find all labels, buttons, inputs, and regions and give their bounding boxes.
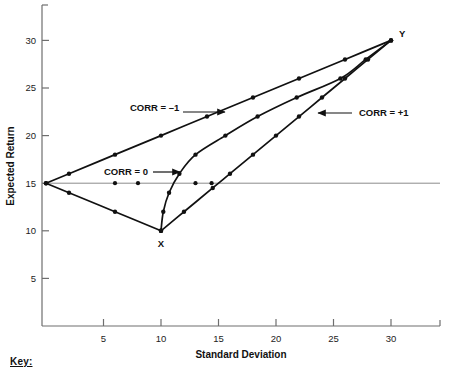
reference-marker — [113, 181, 117, 185]
data-point — [159, 133, 163, 137]
y-tick-label-5: 5 — [31, 273, 36, 284]
data-point — [251, 152, 255, 156]
data-point — [251, 95, 255, 99]
data-point — [320, 95, 324, 99]
data-point — [67, 171, 71, 175]
series-layer — [46, 40, 391, 230]
data-point — [167, 191, 171, 195]
reference-marker — [210, 181, 214, 185]
x-axis-title: Standard Deviation — [195, 349, 286, 360]
data-point — [113, 210, 117, 214]
data-point — [113, 152, 117, 156]
data-point — [205, 114, 209, 118]
data-point — [161, 210, 165, 214]
reference-marker — [136, 181, 140, 185]
x-tick-label-10: 10 — [156, 333, 167, 344]
endpoint-label-Y: Y — [399, 28, 406, 39]
data-point — [228, 171, 232, 175]
y-tick-label-25: 25 — [25, 82, 36, 93]
y-tick-label-30: 30 — [25, 35, 36, 46]
annotation-label-corr-plus-1: CORR = +1 — [359, 107, 409, 118]
x-tick-label-20: 20 — [271, 333, 282, 344]
data-point — [255, 114, 259, 118]
x-tick-label-30: 30 — [386, 333, 397, 344]
reference-marker — [193, 181, 197, 185]
annotation-label-corr-minus-1: CORR = –1 — [130, 102, 180, 113]
portfolio-risk-return-chart: 51015202530 51015202530 Standard Deviati… — [0, 0, 451, 375]
data-point — [193, 152, 197, 156]
y-tick-label-10: 10 — [25, 225, 36, 236]
data-point — [223, 133, 227, 137]
data-point — [343, 57, 347, 61]
data-point — [44, 181, 48, 185]
y-tick-label-15: 15 — [25, 178, 36, 189]
y-tick-label-20: 20 — [25, 130, 36, 141]
data-point — [211, 186, 215, 190]
figure-container: 51015202530 51015202530 Standard Deviati… — [0, 0, 451, 375]
data-point — [274, 133, 278, 137]
data-point — [297, 76, 301, 80]
y-axis-ticks: 51015202530 — [25, 35, 49, 284]
data-point — [159, 229, 163, 233]
data-point — [295, 95, 299, 99]
x-tick-label-15: 15 — [213, 333, 224, 344]
data-point — [389, 38, 393, 42]
data-point — [297, 114, 301, 118]
data-point — [67, 191, 71, 195]
annotation-label-corr-zero: CORR = 0 — [104, 166, 148, 177]
data-point — [182, 210, 186, 214]
data-point — [366, 57, 370, 61]
data-point — [343, 76, 347, 80]
x-axis-ticks: 51015202530 — [101, 319, 396, 344]
y-axis-title: Expected Return — [5, 126, 16, 205]
endpoint-label-X: X — [158, 238, 165, 249]
x-tick-label-5: 5 — [101, 333, 106, 344]
curve-corr-1 — [46, 183, 161, 231]
key-heading: Key: — [10, 356, 32, 367]
data-point — [338, 76, 342, 80]
x-tick-label-25: 25 — [328, 333, 339, 344]
